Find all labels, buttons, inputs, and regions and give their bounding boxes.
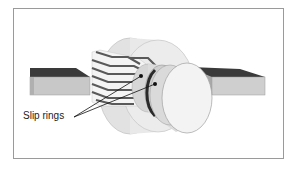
slip-rings-label: Slip rings (23, 110, 64, 121)
left-pole-bar (30, 68, 90, 95)
slip-ring-marker-1 (139, 74, 143, 78)
shaft-end-disk (162, 63, 212, 133)
slip-ring-marker-2 (153, 82, 157, 86)
slip-ring-diagram (0, 0, 295, 170)
